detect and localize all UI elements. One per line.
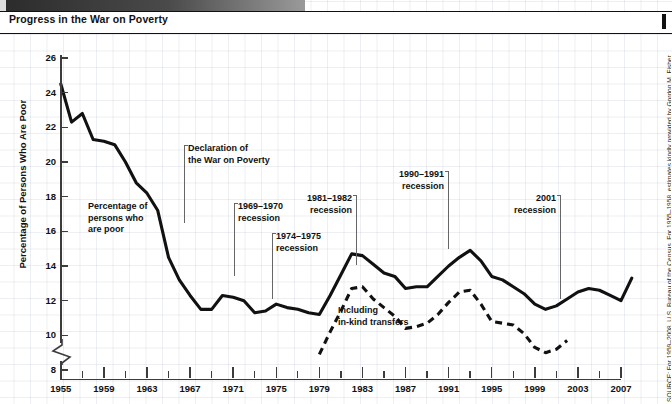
annotation-recession-1990: 1990–1991 recession	[399, 169, 444, 192]
x-axis-line	[60, 379, 621, 381]
x-axis-tick-label: 1955	[41, 383, 81, 394]
window-tab-corner	[0, 0, 6, 11]
x-axis-tick-label: 1999	[515, 383, 555, 394]
x-axis-tick-minor	[297, 371, 298, 378]
annotation-series-label-poor: Percentage of persons who are poor	[88, 201, 148, 236]
y-axis-tick-label: 16	[26, 225, 56, 236]
x-axis-tick-major	[189, 367, 190, 378]
x-axis-tick-major	[405, 367, 406, 378]
x-axis-tick-minor	[340, 371, 341, 378]
annotation-leader-recession-1981	[356, 195, 357, 265]
y-axis-tick-label: 26	[26, 52, 56, 63]
x-axis-tick-label: 1987	[386, 383, 426, 394]
chart-page: Progress in the War on Poverty 810121416…	[0, 0, 672, 404]
x-axis-tick-label: 1995	[472, 383, 512, 394]
annotation-leader-cap-recession-1969	[234, 203, 238, 204]
y-axis-tick	[61, 265, 68, 266]
y-axis-tick	[61, 231, 68, 232]
y-axis-tick	[61, 92, 68, 93]
x-axis-tick-label: 2003	[558, 383, 598, 394]
title-end-marker	[662, 14, 666, 29]
y-axis-tick	[61, 369, 68, 370]
y-axis-tick	[61, 161, 68, 162]
x-axis-tick-major	[103, 367, 104, 378]
annotation-recession-2001: 2001 recession	[514, 193, 556, 216]
x-axis-tick-minor	[82, 371, 83, 378]
y-axis-tick-label: 14	[26, 260, 56, 271]
annotation-recession-1974: 1974–1975 recession	[276, 231, 321, 254]
annotation-leader-recession-1990	[448, 171, 449, 249]
window-tab-strip	[0, 0, 305, 11]
x-axis-tick-major	[620, 367, 621, 378]
source-note: SOURCE: For 1959–2008, U.S. Bureau of th…	[666, 54, 671, 402]
x-axis-tick-minor	[426, 371, 427, 378]
x-axis-tick-label: 1983	[342, 383, 382, 394]
x-axis-tick-major	[448, 367, 449, 378]
y-axis-tick	[61, 57, 68, 58]
axis-break-symbol	[52, 339, 74, 365]
x-axis-tick-minor	[168, 371, 169, 378]
x-axis-tick-label: 1967	[170, 383, 210, 394]
x-axis-tick-major	[276, 367, 277, 378]
x-axis-tick-minor	[211, 371, 212, 378]
x-axis-tick-label: 1971	[213, 383, 253, 394]
annotation-declaration: Declaration of the War on Poverty	[188, 143, 270, 166]
annotation-leader-cap-recession-1981	[353, 195, 357, 196]
annotation-leader-recession-2001	[560, 195, 561, 299]
annotation-recession-1969: 1969–1970 recession	[238, 201, 283, 224]
chart-plot-area: 8101214161820222426 19551959196319671971…	[0, 33, 648, 404]
x-axis-tick-major	[491, 367, 492, 378]
annotation-leader-cap-declaration	[184, 145, 188, 146]
annotation-leader-recession-1969	[234, 203, 235, 276]
y-axis-title: Percentage of Persons Who Are Poor	[17, 109, 28, 269]
x-axis-tick-label: 1963	[127, 383, 167, 394]
x-axis-tick-label: 2007	[601, 383, 641, 394]
y-axis-tick-label: 22	[26, 121, 56, 132]
y-axis-tick-label: 20	[26, 156, 56, 167]
page-title: Progress in the War on Poverty	[9, 13, 168, 25]
y-axis-tick	[61, 196, 68, 197]
y-axis-tick-label: 8	[26, 364, 56, 375]
x-axis-tick-minor	[599, 371, 600, 378]
x-axis-tick-minor	[383, 371, 384, 378]
annotation-leader-cap-recession-1974	[272, 233, 276, 234]
x-axis-tick-major	[146, 367, 147, 378]
x-axis-tick-major	[362, 367, 363, 378]
x-axis-tick-label: 1959	[84, 383, 124, 394]
x-axis-tick-major	[232, 367, 233, 378]
annotation-leader-cap-recession-1990	[445, 171, 449, 172]
y-axis-tick-label: 10	[26, 329, 56, 340]
x-axis-tick-label: 1979	[299, 383, 339, 394]
x-axis-tick-label: 1975	[256, 383, 296, 394]
y-axis-tick	[61, 127, 68, 128]
x-axis-tick-major	[60, 367, 61, 378]
annotation-recession-1981: 1981–1982 recession	[307, 193, 352, 216]
y-axis-tick	[61, 300, 68, 301]
y-axis-tick	[61, 335, 68, 336]
x-axis-tick-minor	[556, 371, 557, 378]
x-axis-tick-minor	[513, 371, 514, 378]
annotation-in-kind-transfers: Including in-kind transfers	[338, 305, 409, 328]
x-axis-tick-major	[319, 367, 320, 378]
x-axis-tick-major	[534, 367, 535, 378]
x-axis-tick-minor	[254, 371, 255, 378]
y-axis-tick-label: 24	[26, 87, 56, 98]
annotation-leader-declaration	[184, 145, 185, 223]
annotation-leader-recession-1974	[272, 233, 273, 299]
x-axis-tick-label: 1991	[429, 383, 469, 394]
y-axis-tick-label: 18	[26, 191, 56, 202]
x-axis-tick-minor	[125, 371, 126, 378]
x-axis-tick-major	[577, 367, 578, 378]
x-axis-tick-minor	[469, 371, 470, 378]
source-note-container: SOURCE: For 1959–2008, U.S. Bureau of th…	[655, 32, 671, 404]
y-axis-tick-label: 12	[26, 295, 56, 306]
annotation-leader-cap-recession-2001	[557, 195, 561, 196]
